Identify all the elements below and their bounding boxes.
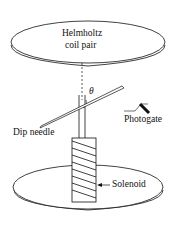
dip-needle-label: Dip needle	[13, 128, 54, 138]
helmholtz-label-line1: Helmholtz	[62, 29, 102, 39]
photogate-icon	[124, 104, 149, 113]
solenoid	[72, 138, 96, 202]
solenoid-label: Solenoid	[112, 180, 146, 190]
photogate-label: Photogate	[124, 115, 162, 125]
apparatus-diagram: Helmholtz coil pair θ Photogate Dip need…	[0, 0, 177, 233]
theta-label: θ	[89, 87, 94, 97]
support-rod	[79, 95, 85, 140]
helmholtz-label-line2: coil pair	[65, 41, 96, 51]
